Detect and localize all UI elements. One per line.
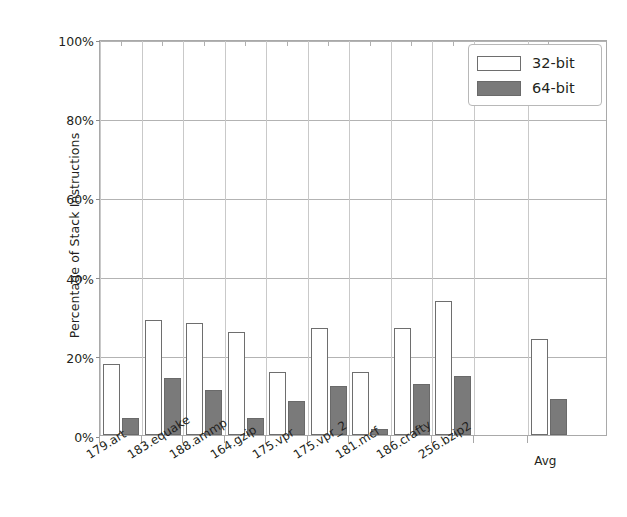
y-tick-label: 100% (58, 34, 94, 49)
y-axis-title: Percentage of Stack Instructions (67, 46, 82, 426)
top-axis-tick (370, 41, 371, 46)
y-tick-label: 60% (66, 192, 94, 207)
x-tick-label: Avg (534, 454, 556, 468)
bar-32bit[interactable] (394, 328, 411, 435)
y-tick-label: 0% (74, 430, 94, 445)
group-separator (266, 41, 267, 435)
legend-swatch-64bit-icon (477, 81, 521, 96)
top-axis-tick (328, 41, 329, 46)
top-axis-tick (162, 41, 163, 46)
chart-figure: Percentage of Stack Instructions 0%20%40… (0, 0, 627, 517)
gridline (100, 199, 606, 200)
legend-swatch-32bit-icon (477, 56, 521, 71)
y-tick-label: 80% (66, 113, 94, 128)
top-axis-tick (245, 41, 246, 46)
x-tick-mark (527, 436, 528, 443)
gridline (100, 120, 606, 121)
y-tick-label: 40% (66, 271, 94, 286)
bar-32bit[interactable] (311, 328, 328, 435)
legend-entry-64bit[interactable]: 64-bit (477, 77, 593, 99)
x-tick-mark (473, 436, 474, 443)
legend-label-64bit: 64-bit (532, 80, 575, 96)
top-axis-tick (121, 41, 122, 46)
bar-64bit[interactable] (550, 399, 567, 435)
group-separator (225, 41, 226, 435)
top-axis-tick (204, 41, 205, 46)
bar-32bit[interactable] (269, 372, 286, 435)
gridline (100, 278, 606, 279)
group-separator (308, 41, 309, 435)
group-separator (100, 41, 101, 435)
group-separator (142, 41, 143, 435)
y-tick-label: 20% (66, 350, 94, 365)
gridline (100, 41, 606, 42)
chart-legend: 32-bit 64-bit (468, 44, 602, 106)
top-axis-tick (453, 41, 454, 46)
legend-label-32bit: 32-bit (532, 55, 575, 71)
group-separator (432, 41, 433, 435)
top-axis-tick (287, 41, 288, 46)
legend-entry-32bit[interactable]: 32-bit (477, 52, 593, 74)
bar-32bit[interactable] (435, 301, 452, 435)
group-separator (183, 41, 184, 435)
top-axis-tick (411, 41, 412, 46)
bar-32bit[interactable] (352, 372, 369, 435)
bar-32bit[interactable] (531, 339, 548, 435)
bar-32bit[interactable] (145, 320, 162, 435)
group-separator (391, 41, 392, 435)
bar-32bit[interactable] (228, 332, 245, 435)
bar-32bit[interactable] (103, 364, 120, 435)
group-separator (349, 41, 350, 435)
